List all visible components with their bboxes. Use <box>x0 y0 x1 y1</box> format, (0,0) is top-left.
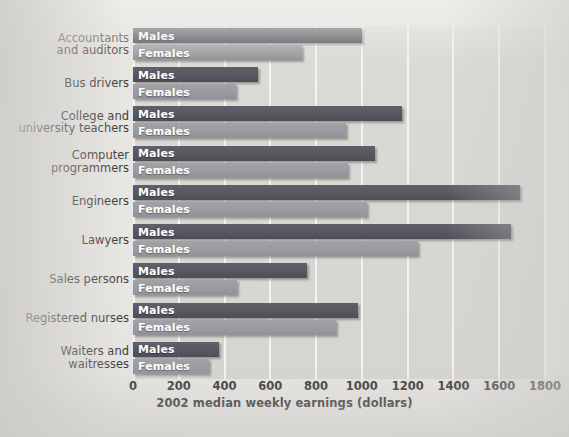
bar-males: Males <box>133 263 307 278</box>
bar-label-males: Males <box>138 107 175 120</box>
category-label-line: Waiters and <box>1 345 129 358</box>
category-label-line: programmers <box>1 162 129 175</box>
bar-label-females: Females <box>138 360 190 373</box>
bar-label-females: Females <box>138 321 190 334</box>
x-tick-1000: 1000 <box>346 379 378 393</box>
category-label-line: Engineers <box>1 195 129 208</box>
category-label-line: Sales persons <box>1 273 129 286</box>
gridline-1800 <box>544 26 546 379</box>
category-label-line: Computer <box>1 149 129 162</box>
bar-label-males: Males <box>138 225 175 238</box>
bar-label-females: Females <box>138 46 190 59</box>
gridline-1600 <box>498 26 500 379</box>
bar-label-males: Males <box>138 264 175 277</box>
bar-males: Males <box>133 67 258 82</box>
category-label: Bus drivers <box>1 77 129 90</box>
bar-males: Males <box>133 303 358 318</box>
bar-females: Females <box>133 280 237 295</box>
category-label: Accountantsand auditors <box>1 32 129 57</box>
bar-label-females: Females <box>138 242 190 255</box>
category-label-line: university teachers <box>1 122 129 135</box>
x-tick-0: 0 <box>129 379 137 393</box>
bar-females: Females <box>133 241 418 256</box>
bar-females: Females <box>133 123 346 138</box>
category-label: College anduniversity teachers <box>1 110 129 135</box>
bar-label-females: Females <box>138 85 190 98</box>
x-tick-200: 200 <box>167 379 191 393</box>
plot-area: MalesFemalesMalesFemalesMalesFemalesMale… <box>133 26 545 379</box>
bar-label-males: Males <box>138 29 175 42</box>
bar-males: Males <box>133 106 402 121</box>
bar-label-males: Males <box>138 147 175 160</box>
category-label-line: and auditors <box>1 44 129 57</box>
category-label: Sales persons <box>1 273 129 286</box>
category-label: Engineers <box>1 195 129 208</box>
chart-page: MalesFemalesMalesFemalesMalesFemalesMale… <box>0 0 569 437</box>
bar-females: Females <box>133 359 209 374</box>
bar-males: Males <box>133 146 375 161</box>
x-tick-1400: 1400 <box>437 379 469 393</box>
bar-females: Females <box>133 202 367 217</box>
bar-label-females: Females <box>138 203 190 216</box>
category-label: Waiters andwaitresses <box>1 345 129 370</box>
bar-label-females: Females <box>138 124 190 137</box>
bar-males: Males <box>133 28 362 43</box>
bar-males: Males <box>133 224 511 239</box>
bar-label-males: Males <box>138 343 175 356</box>
bar-label-females: Females <box>138 281 190 294</box>
bar-label-females: Females <box>138 164 190 177</box>
bar-label-males: Males <box>138 186 175 199</box>
category-label-line: waitresses <box>1 358 129 371</box>
gridline-1400 <box>452 26 454 379</box>
bar-label-males: Males <box>138 304 175 317</box>
x-tick-1800: 1800 <box>529 379 561 393</box>
bar-label-males: Males <box>138 68 175 81</box>
bar-males: Males <box>133 185 520 200</box>
bar-females: Females <box>133 45 302 60</box>
category-label-line: Bus drivers <box>1 77 129 90</box>
bar-females: Females <box>133 84 236 99</box>
x-tick-1200: 1200 <box>392 379 424 393</box>
x-tick-600: 600 <box>258 379 282 393</box>
category-label: Registered nurses <box>1 312 129 325</box>
x-tick-1600: 1600 <box>483 379 515 393</box>
bar-females: Females <box>133 163 348 178</box>
category-axis-labels: Accountantsand auditorsBus driversColleg… <box>0 26 129 379</box>
x-axis-title: 2002 median weekly earnings (dollars) <box>0 396 569 410</box>
bar-females: Females <box>133 320 336 335</box>
gridline-1200 <box>407 26 409 379</box>
x-tick-400: 400 <box>213 379 237 393</box>
category-label: Lawyers <box>1 234 129 247</box>
category-label-line: Registered nurses <box>1 312 129 325</box>
bar-males: Males <box>133 342 219 357</box>
category-label: Computerprogrammers <box>1 149 129 174</box>
x-tick-800: 800 <box>304 379 328 393</box>
category-label-line: Lawyers <box>1 234 129 247</box>
